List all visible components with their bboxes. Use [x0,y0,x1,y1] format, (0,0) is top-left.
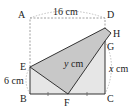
label-A: A [18,9,26,20]
label-H: H [113,28,120,39]
label-G: G [107,41,114,52]
label-E: E [20,61,26,72]
unit-y: cm [68,58,83,69]
measure-right: x cm [108,63,128,74]
folding-diagram: A D H G E B F C 16 cm 6 cm y cm x cm [0,0,137,112]
measure-left: 6 cm [4,75,24,86]
label-F: F [64,97,70,108]
measure-diagonal: y cm [63,58,83,69]
arc-left [26,67,30,94]
measure-top: 16 cm [53,6,78,17]
label-D: D [107,9,114,20]
unit-x: cm [113,63,128,74]
label-C: C [107,93,114,104]
label-B: B [20,93,27,104]
